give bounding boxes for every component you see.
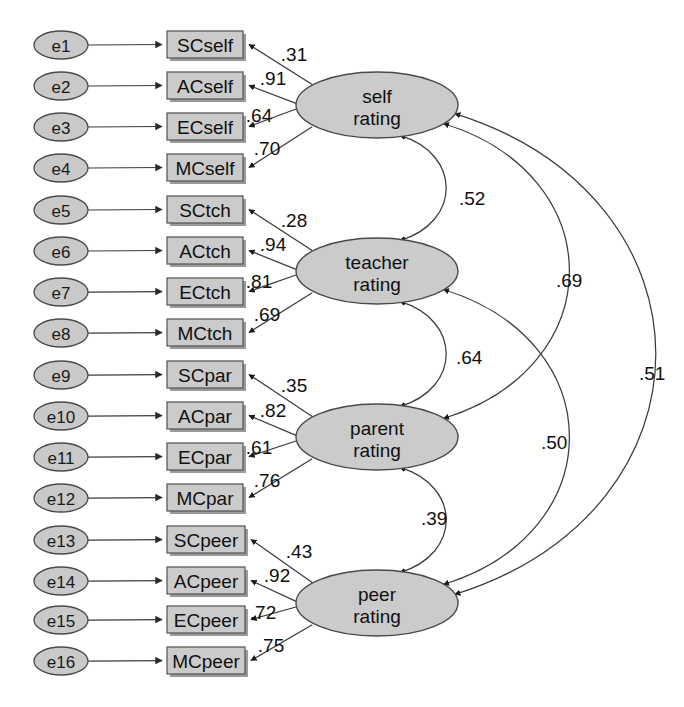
error-arrow (88, 581, 162, 582)
error-node-e10: e10 (34, 402, 88, 430)
loading-coefficient: .43 (286, 541, 312, 562)
error-node-e3: e3 (34, 113, 88, 141)
sem-diagram: e1e2e3e4e5e6e7e8e9e10e11e12e13e14e15e16 … (0, 0, 684, 707)
error-label: e1 (52, 37, 71, 56)
loading-coefficient: .28 (281, 210, 307, 231)
indicator-node-SCtch: SCtch (167, 196, 246, 226)
indicator-node-ECpeer: ECpeer (167, 606, 248, 636)
correlation-coefficient: .69 (556, 270, 582, 291)
factor-node-peer: peerrating (296, 570, 458, 636)
indicator-node-MCpar: MCpar (167, 484, 246, 514)
error-node-e11: e11 (34, 443, 88, 471)
correlation-coefficient: .51 (639, 363, 665, 384)
error-label: e13 (47, 532, 75, 551)
correlation-coefficient: .52 (459, 188, 485, 209)
factor-node-self: selfrating (296, 72, 458, 138)
factor-label-line2: rating (353, 606, 401, 627)
loading-coefficient: .64 (246, 105, 273, 126)
correlation-path (400, 135, 447, 240)
factor-label-line2: rating (353, 440, 401, 461)
loading-coefficient: .81 (246, 271, 272, 292)
error-node-e6: e6 (34, 237, 88, 265)
error-arrow (88, 498, 162, 499)
indicator-node-MCtch: MCtch (167, 319, 246, 349)
error-node-e12: e12 (34, 484, 88, 512)
error-arrow (88, 620, 162, 621)
correlation-coefficient: .50 (541, 432, 567, 453)
error-arrow (88, 661, 162, 662)
error-label: e7 (52, 284, 71, 303)
indicator-node-MCself: MCself (167, 154, 246, 184)
indicator-node-ECself: ECself (167, 113, 246, 143)
error-node-e13: e13 (34, 526, 88, 554)
error-arrow (88, 540, 162, 541)
factor-label-line1: parent (350, 418, 405, 439)
correlation-path (455, 114, 656, 595)
indicator-node-ECtch: ECtch (167, 278, 246, 308)
error-arrow (88, 127, 162, 128)
error-label: e6 (52, 243, 71, 262)
error-arrow (88, 416, 162, 417)
error-node-e16: e16 (34, 647, 88, 675)
factor-label-line2: rating (353, 274, 401, 295)
loading-coefficient: .94 (260, 234, 287, 255)
error-label: e15 (47, 612, 75, 631)
error-label: e11 (47, 449, 74, 468)
factor-label-line1: peer (358, 584, 397, 605)
indicator-node-group: SCselfACselfECselfMCselfSCtchACtchECtchM… (167, 31, 248, 677)
error-arrow (88, 457, 162, 458)
error-label: e8 (52, 325, 71, 344)
indicator-node-SCself: SCself (167, 31, 246, 61)
error-arrow (88, 45, 162, 46)
loading-coefficient: .31 (281, 44, 307, 65)
indicator-node-ACpar: ACpar (167, 402, 246, 432)
factor-label-line2: rating (353, 108, 401, 129)
correlation-coefficient: .39 (421, 508, 447, 529)
indicator-label: ECpeer (174, 610, 239, 631)
indicator-label: ECpar (178, 447, 233, 468)
error-label: e3 (52, 119, 71, 138)
error-label: e12 (47, 490, 75, 509)
correlation-path (400, 301, 447, 406)
error-node-e5: e5 (34, 196, 88, 224)
factor-node-parent: parentrating (296, 404, 458, 470)
error-label: e2 (52, 78, 71, 97)
indicator-node-ACtch: ACtch (167, 237, 246, 267)
indicator-label: ACtch (179, 241, 231, 262)
indicator-label: ACpar (178, 406, 233, 427)
indicator-label: ECtch (179, 282, 231, 303)
error-node-e7: e7 (34, 278, 88, 306)
error-label: e16 (47, 653, 75, 672)
indicator-node-ACpeer: ACpeer (167, 567, 248, 597)
error-arrow (88, 292, 162, 293)
error-node-e8: e8 (34, 319, 88, 347)
indicator-node-MCpeer: MCpeer (167, 647, 248, 677)
error-node-group: e1e2e3e4e5e6e7e8e9e10e11e12e13e14e15e16 (34, 31, 88, 675)
error-label: e10 (47, 408, 75, 427)
factor-label-line1: self (362, 86, 392, 107)
error-label: e5 (52, 202, 71, 221)
error-node-e9: e9 (34, 361, 88, 389)
indicator-node-SCpeer: SCpeer (167, 526, 248, 556)
loading-coefficient: .35 (281, 375, 307, 396)
correlation-coefficient: .64 (456, 347, 483, 368)
error-arrow (88, 375, 162, 376)
factor-label-line1: teacher (345, 252, 409, 273)
error-arrow (88, 210, 162, 211)
indicator-label: MCtch (178, 323, 233, 344)
loading-coefficient: .69 (254, 304, 280, 325)
indicator-node-ECpar: ECpar (167, 443, 246, 473)
coefficient-label-group: .31.91.64.70.28.94.81.69.35.82.61.76.43.… (246, 44, 666, 656)
loading-coefficient: .76 (254, 470, 280, 491)
loading-coefficient: .72 (250, 602, 276, 623)
error-node-e1: e1 (34, 31, 88, 59)
error-arrow (88, 168, 162, 169)
factor-node-teacher: teacherrating (296, 238, 458, 304)
error-node-e15: e15 (34, 606, 88, 634)
error-arrow (88, 251, 162, 252)
indicator-node-SCpar: SCpar (167, 361, 246, 391)
correlation-path (443, 124, 569, 419)
indicator-label: ACpeer (174, 571, 239, 592)
sem-canvas: e1e2e3e4e5e6e7e8e9e10e11e12e13e14e15e16 … (0, 0, 684, 707)
indicator-node-ACself: ACself (167, 72, 246, 102)
